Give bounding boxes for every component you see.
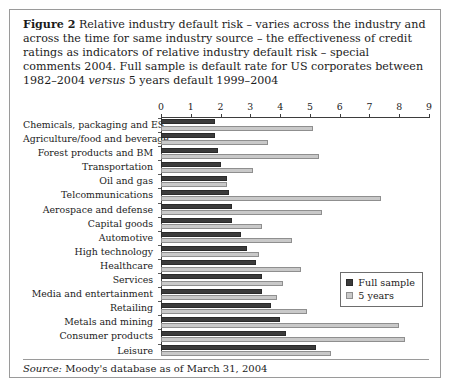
category-label: Retailing [23,301,157,315]
bar-five-years [161,238,292,243]
category-label: Capital goods [23,217,157,231]
category-label: Forest products and BM [23,146,157,160]
x-tick-mark [429,114,430,118]
bar-full-sample [161,274,262,279]
category-label: Telcommunications [23,188,157,202]
legend-item: 5 years [346,289,415,302]
x-axis-tick-labels: 0123456789 [161,100,429,114]
x-tick-label: 1 [188,100,194,113]
bar-row [161,329,429,343]
bar-full-sample [161,345,316,350]
category-label: Consumer products [23,329,157,343]
category-axis-labels: Chemicals, packaging and ESAgriculture/f… [23,118,157,358]
bar-full-sample [161,331,286,336]
bar-full-sample [161,204,232,209]
bar-full-sample [161,162,221,167]
bar-full-sample [161,190,229,195]
bar-five-years [161,210,322,215]
bar-row [161,315,429,329]
bar-full-sample [161,119,215,124]
bar-row [161,203,429,217]
bar-five-years [161,309,307,314]
bar-five-years [161,252,259,257]
bar-five-years [161,182,227,187]
category-label: High technology [23,245,157,259]
source-text: Moody's database as of March 31, 2004 [62,363,267,374]
bar-five-years [161,140,268,145]
bar-full-sample [161,218,232,223]
bar-full-sample [161,133,215,138]
bar-row [161,188,429,202]
category-label: Oil and gas [23,174,157,188]
chart-legend: Full sample5 years [340,272,423,307]
legend-label: Full sample [358,277,415,288]
x-tick-label: 6 [337,100,343,113]
bar-full-sample [161,148,218,153]
category-label: Metals and mining [23,315,157,329]
caption-italic-versus: versus [89,74,126,87]
source-label: Source: [23,363,62,374]
bar-five-years [161,323,399,328]
x-tick-label: 4 [277,100,283,113]
category-label: Aerospace and defense [23,203,157,217]
category-label: Leisure [23,344,157,358]
bar-row [161,118,429,132]
x-tick-label: 9 [426,100,432,113]
bar-row [161,344,429,358]
legend-label: 5 years [358,290,393,301]
bar-row [161,132,429,146]
bar-full-sample [161,303,271,308]
x-tick-label: 2 [218,100,224,113]
bar-full-sample [161,289,262,294]
bar-row [161,146,429,160]
x-tick-label: 3 [247,100,253,113]
bar-row [161,160,429,174]
bar-row [161,259,429,273]
x-tick-label: 8 [396,100,402,113]
legend-item: Full sample [346,276,415,289]
bar-five-years [161,224,262,229]
category-label: Chemicals, packaging and ES [23,118,157,132]
category-label: Transportation [23,160,157,174]
figure-number: Figure 2 [23,18,75,31]
source-divider [23,359,429,360]
figure-container: Figure 2 Relative industry default risk … [9,9,441,378]
bar-five-years [161,126,313,131]
bar-row [161,231,429,245]
chart-plot-area: Chemicals, packaging and ESAgriculture/f… [23,100,429,355]
category-label: Media and entertainment [23,287,157,301]
source-note: Source: Moody's database as of March 31,… [23,363,267,374]
bar-group [161,118,429,358]
x-tick-label: 7 [366,100,372,113]
bar-row [161,245,429,259]
bar-five-years [161,267,301,272]
category-label: Agriculture/food and beverage [23,132,157,146]
legend-swatch-icon [346,292,353,299]
x-tick-label: 5 [307,100,313,113]
bar-five-years [161,281,283,286]
bar-row [161,217,429,231]
bar-five-years [161,351,331,356]
legend-swatch-icon [346,279,353,286]
bar-five-years [161,295,277,300]
bar-row [161,174,429,188]
caption-text-part2: 5 years default 1999–2004 [125,74,278,87]
bar-five-years [161,168,253,173]
bar-five-years [161,337,405,342]
bar-full-sample [161,232,241,237]
bar-full-sample [161,317,280,322]
bar-full-sample [161,260,256,265]
category-label: Services [23,273,157,287]
x-tick-label: 0 [158,100,164,113]
bar-five-years [161,196,381,201]
category-label: Healthcare [23,259,157,273]
category-label: Automotive [23,231,157,245]
bar-five-years [161,154,319,159]
figure-caption: Figure 2 Relative industry default risk … [23,18,429,88]
bar-full-sample [161,246,247,251]
chart-axis-region: 0123456789 [161,100,429,355]
bar-full-sample [161,176,227,181]
